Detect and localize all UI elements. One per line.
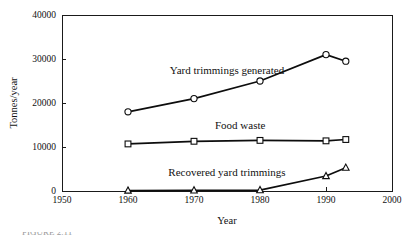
line-chart: 010000200003000040000 195019601970198019…: [0, 0, 418, 240]
series-label: Yard trimmings generated: [170, 64, 285, 76]
data-point-square: [323, 138, 329, 144]
figure-container: 010000200003000040000 195019601970198019…: [0, 0, 418, 240]
x-axis-title: Year: [217, 215, 237, 226]
x-tick-label: 1970: [185, 195, 204, 205]
data-point-square: [125, 141, 131, 147]
data-point-square: [343, 137, 349, 143]
x-tick-label: 1960: [119, 195, 138, 205]
data-point-circle: [343, 58, 349, 64]
data-point-square: [191, 138, 197, 144]
data-point-circle: [323, 52, 329, 58]
x-tick-label: 1990: [317, 195, 336, 205]
data-point-circle: [125, 109, 131, 115]
data-point-circle: [191, 96, 197, 102]
series-line-square: [128, 140, 346, 144]
y-axis-ticks: 010000200003000040000: [32, 10, 66, 196]
y-axis-title: Tonnes/year: [8, 77, 19, 129]
plot-frame: [62, 15, 392, 191]
figure-caption-text: FIGURE 2.11: [22, 232, 72, 237]
x-tick-label: 2000: [383, 195, 402, 205]
y-tick-label: 30000: [32, 54, 56, 64]
data-point-circle: [257, 78, 263, 84]
series-annotations: Yard trimmings generatedFood wasteRecove…: [168, 64, 285, 178]
y-tick-label: 40000: [32, 10, 56, 20]
series-label: Food waste: [215, 119, 266, 131]
x-tick-label: 1950: [53, 195, 72, 205]
x-tick-label: 1980: [251, 195, 270, 205]
data-point-triangle: [342, 164, 349, 170]
series-line-circle: [128, 55, 346, 112]
y-tick-label: 20000: [32, 98, 56, 108]
axes: [62, 15, 392, 191]
y-tick-label: 10000: [32, 142, 56, 152]
data-point-square: [257, 138, 263, 144]
figure-caption-clipped: FIGURE 2.11: [0, 232, 418, 240]
series-label: Recovered yard trimmings: [168, 166, 285, 178]
